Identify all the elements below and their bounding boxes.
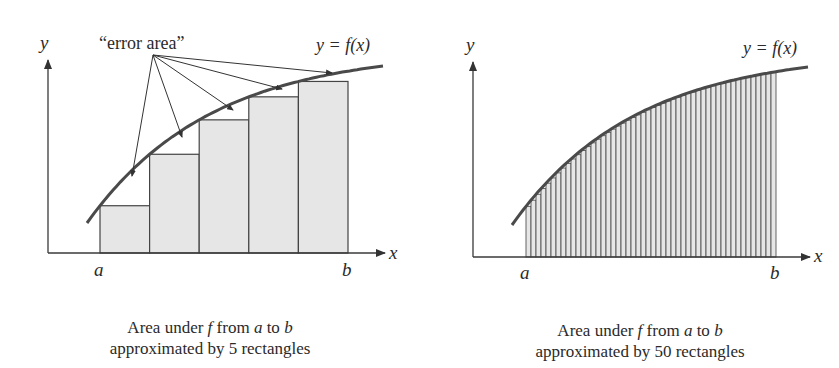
- approx-rectangle: [541, 189, 546, 257]
- approx-rectangle: [751, 76, 756, 257]
- left-caption-line1: Area under f from a to b: [60, 317, 360, 338]
- left-x-axis-label: x: [389, 242, 397, 264]
- approx-rectangle: [766, 73, 771, 257]
- approx-rectangle: [556, 173, 561, 257]
- approx-rectangle: [621, 123, 626, 257]
- left-b-label: b: [342, 259, 352, 281]
- left-curve-label: y = f(x): [316, 35, 370, 56]
- arrow-icon: [153, 55, 233, 110]
- approx-rectangle: [100, 206, 150, 253]
- right-caption-line2: approximated by 50 rectangles: [480, 341, 800, 362]
- arrow-icon: [153, 55, 332, 73]
- approx-rectangle: [701, 89, 706, 257]
- approx-rectangle: [551, 178, 556, 257]
- right-b-label: b: [770, 262, 780, 284]
- approx-rectangle: [591, 143, 596, 257]
- error-area-annotation: “error area”: [99, 33, 184, 54]
- approx-rectangle: [736, 79, 741, 257]
- approx-rectangle: [199, 120, 249, 253]
- approx-rectangle: [696, 90, 701, 257]
- right-caption: Area under f from a to b approximated by…: [480, 320, 800, 362]
- left-a-label: a: [94, 259, 104, 281]
- approx-rectangle: [576, 155, 581, 257]
- approx-rectangle: [646, 110, 651, 257]
- approx-rectangle: [731, 81, 736, 257]
- approx-rectangle: [586, 147, 591, 257]
- right-a-label: a: [520, 262, 530, 284]
- approx-rectangle: [150, 154, 200, 253]
- approx-rectangle: [581, 151, 586, 257]
- approx-rectangle: [616, 126, 621, 257]
- diagram-canvas: [0, 0, 839, 368]
- approx-rectangle: [561, 168, 566, 257]
- approx-rectangle: [726, 82, 731, 257]
- right-chart: [473, 62, 810, 257]
- left-caption: Area under f from a to b approximated by…: [60, 317, 360, 359]
- approx-rectangle: [626, 120, 631, 257]
- approx-rectangle: [601, 136, 606, 257]
- approx-rectangle: [531, 200, 536, 257]
- approx-rectangle: [661, 103, 666, 257]
- approx-rectangle: [756, 75, 761, 257]
- approx-rectangle: [606, 132, 611, 257]
- approx-rectangle: [706, 87, 711, 257]
- approx-rectangle: [771, 73, 776, 257]
- right-y-axis-label: y: [466, 34, 474, 56]
- approx-rectangle: [298, 81, 348, 253]
- approx-rectangle: [571, 159, 576, 257]
- approx-rectangle: [681, 95, 686, 257]
- right-x-axis-label: x: [814, 245, 822, 267]
- left-y-axis-label: y: [40, 32, 48, 54]
- approx-rectangle: [711, 86, 716, 257]
- right-caption-line1: Area under f from a to b: [480, 320, 800, 341]
- approx-rectangle: [546, 183, 551, 257]
- approx-rectangle: [596, 139, 601, 257]
- right-curve-label: y = f(x): [743, 38, 797, 59]
- approx-rectangle: [686, 94, 691, 257]
- approx-rectangle: [611, 129, 616, 257]
- approx-rectangle: [716, 84, 721, 257]
- arrow-icon: [153, 55, 282, 89]
- arrow-icon: [153, 55, 182, 137]
- approx-rectangle: [746, 77, 751, 257]
- approx-rectangle: [249, 97, 299, 253]
- approx-rectangle: [691, 92, 696, 257]
- approx-rectangle: [636, 115, 641, 257]
- approx-rectangle: [641, 112, 646, 257]
- approx-rectangle: [536, 194, 541, 257]
- approx-rectangle: [651, 108, 656, 257]
- approx-rectangle: [656, 105, 661, 257]
- approx-rectangle: [566, 163, 571, 257]
- approx-rectangle: [666, 101, 671, 257]
- approx-rectangle: [676, 97, 681, 257]
- approx-rectangle: [761, 74, 766, 257]
- approx-rectangle: [671, 99, 676, 257]
- left-caption-line2: approximated by 5 rectangles: [60, 338, 360, 359]
- approx-rectangle: [721, 83, 726, 257]
- left-chart: [48, 55, 385, 253]
- approx-rectangle: [526, 206, 531, 257]
- approx-rectangle: [631, 117, 636, 257]
- approx-rectangle: [741, 78, 746, 257]
